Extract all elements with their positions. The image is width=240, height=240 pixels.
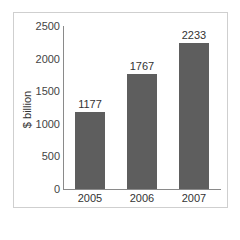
y-tick-0: 0 [20,184,60,195]
y-tick-2500: 2500 [20,21,60,32]
bar-2006 [127,74,157,189]
x-label-2006: 2006 [122,193,162,204]
y-axis [63,26,64,190]
x-label-2005: 2005 [70,193,110,204]
bar-2007 [179,43,209,189]
value-label-2006: 1767 [122,61,162,72]
y-tick-1000: 1000 [20,119,60,130]
value-label-2005: 1177 [70,99,110,110]
y-tick-2000: 2000 [20,54,60,65]
bar-2005 [75,112,105,189]
y-tick-500: 500 [20,151,60,162]
x-axis [63,189,221,190]
x-label-2007: 2007 [174,193,214,204]
value-label-2007: 2233 [174,30,214,41]
y-tick-1500: 1500 [20,86,60,97]
